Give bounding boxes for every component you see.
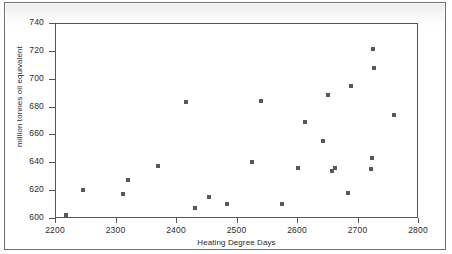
data-point (259, 99, 263, 103)
x-tick-label: 2800 (398, 225, 438, 235)
x-axis-title: Heating Degree Days (55, 238, 418, 247)
x-tick-label: 2700 (338, 225, 378, 235)
data-point (193, 206, 197, 210)
scatter-chart-figure: million tonnes oil equivalent 6006206406… (0, 0, 452, 254)
y-tick-label: 600 (12, 213, 44, 222)
data-point (349, 84, 353, 88)
data-point (369, 167, 373, 171)
data-point (280, 202, 284, 206)
data-point (184, 100, 188, 104)
data-point (225, 202, 229, 206)
y-axis-title: million tonnes oil equivalent (15, 22, 24, 172)
x-tick-label: 2400 (156, 225, 196, 235)
data-point (303, 120, 307, 124)
data-point (346, 191, 350, 195)
y-tick-label: 680 (12, 102, 44, 111)
plot-data-area (55, 23, 418, 218)
y-tick-label: 640 (12, 157, 44, 166)
x-tick-label: 2200 (35, 225, 75, 235)
data-point (156, 164, 160, 168)
x-tick-label: 2300 (96, 225, 136, 235)
data-point (296, 166, 300, 170)
data-point (321, 139, 325, 143)
x-tick-label: 2600 (277, 225, 317, 235)
data-point (370, 156, 374, 160)
y-tick-label: 620 (12, 185, 44, 194)
y-tick-label: 720 (12, 46, 44, 55)
data-point (64, 213, 68, 217)
data-point (333, 166, 337, 170)
data-point (81, 188, 85, 192)
x-tick-mark (176, 218, 177, 223)
x-tick-mark (237, 218, 238, 223)
x-tick-mark (418, 218, 419, 223)
data-point (126, 178, 130, 182)
x-tick-label: 2500 (217, 225, 257, 235)
data-point (372, 66, 376, 70)
y-tick-label: 740 (12, 18, 44, 27)
data-point (250, 160, 254, 164)
x-tick-mark (297, 218, 298, 223)
x-tick-mark (116, 218, 117, 223)
data-point (326, 93, 330, 97)
x-tick-mark (358, 218, 359, 223)
y-tick-label: 700 (12, 74, 44, 83)
data-point (371, 47, 375, 51)
x-tick-mark (55, 218, 56, 223)
data-point (121, 192, 125, 196)
data-point (392, 113, 396, 117)
y-tick-label: 660 (12, 129, 44, 138)
data-point (207, 195, 211, 199)
